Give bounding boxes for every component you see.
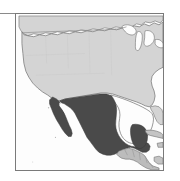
figure-title: Distribution map of North and Central Am…: [0, 0, 1, 1]
region-hispaniola: [157, 142, 163, 147]
map-canvas: [16, 14, 163, 170]
figure-container: Distribution map of North and Central Am…: [0, 0, 180, 181]
map-frame: [15, 13, 164, 171]
